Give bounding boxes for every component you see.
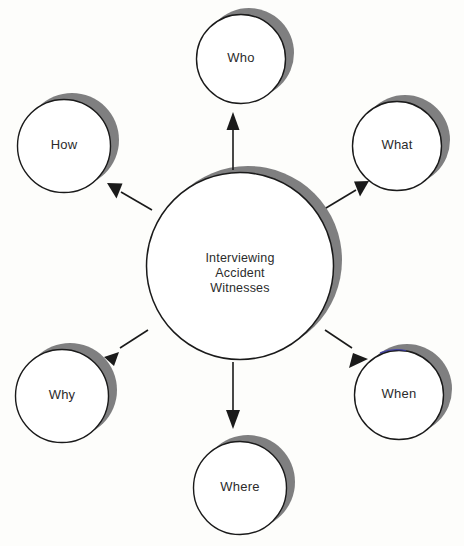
node-who[interactable]: Who (197, 8, 295, 104)
arrow-center-to-why (104, 330, 148, 366)
arrow-center-to-where (226, 362, 240, 429)
where-label: Where (220, 479, 259, 494)
center-label-line-1: Interviewing (205, 251, 274, 265)
node-when[interactable]: When (355, 344, 453, 440)
center-label-line-2: Accident (215, 266, 265, 280)
arrow-who-head (227, 112, 240, 130)
center-label-line-3: Witnesses (210, 281, 269, 295)
when-label: When (382, 386, 417, 401)
arrow-how-head (107, 183, 123, 199)
arrow-where-head (226, 410, 240, 429)
node-where[interactable]: Where (194, 435, 296, 535)
node-center[interactable]: Interviewing Accident Witnesses (147, 166, 343, 360)
node-what[interactable]: What (353, 95, 451, 191)
arrow-how-shaft (121, 192, 152, 210)
diagram-canvas: How Who What Why When (0, 0, 464, 546)
arrow-when-shaft (325, 330, 352, 348)
arrow-why-shaft (120, 330, 148, 348)
how-label: How (51, 137, 78, 152)
node-how[interactable]: How (18, 93, 120, 193)
arrow-center-to-when (325, 330, 368, 368)
arrow-center-to-who (227, 112, 240, 170)
why-label: Why (49, 387, 76, 402)
node-why[interactable]: Why (16, 343, 118, 443)
arrow-center-to-what (326, 181, 369, 208)
what-label: What (381, 137, 412, 152)
arrow-what-shaft (326, 190, 356, 208)
who-label: Who (227, 50, 254, 65)
arrow-center-to-how (107, 183, 152, 210)
bubble-diagram-svg: How Who What Why When (0, 0, 464, 546)
arrow-what-head (354, 181, 369, 197)
